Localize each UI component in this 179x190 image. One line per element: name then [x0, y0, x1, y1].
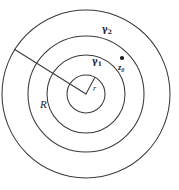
z0-point-marker [120, 56, 124, 60]
small-radius-label: r [93, 85, 96, 93]
gamma1-symbol: γ [92, 56, 98, 66]
diagram-canvas [0, 0, 179, 190]
gamma2-subscript: 2 [108, 28, 112, 35]
z0-label: z0 [118, 63, 124, 72]
gamma2-symbol: γ [102, 24, 108, 34]
big-radius-label: R [40, 99, 47, 110]
gamma2-label: γ2 [102, 25, 112, 34]
gamma1-label: γ1 [92, 57, 102, 66]
z0-subscript: 0 [121, 67, 124, 73]
figure-container: γ2 γ1 z0 R r [0, 0, 179, 190]
gamma1-subscript: 1 [98, 60, 102, 67]
